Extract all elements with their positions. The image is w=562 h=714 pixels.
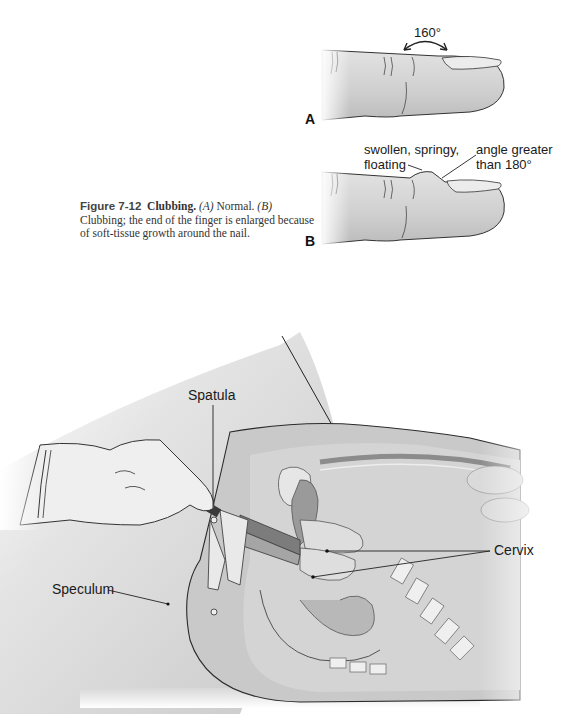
- finger-normal-illustration: [320, 48, 504, 124]
- caption-text-b: Clubbing; the end of the finger is enlar…: [80, 214, 314, 240]
- caption-marker-b: (B): [257, 200, 272, 212]
- label-swollen-line2: floating: [364, 158, 406, 172]
- pelvic-exam-illustration: [0, 332, 562, 714]
- label-angle-line1: angle greater: [476, 143, 553, 157]
- finger-clubbed-illustration: [320, 170, 504, 248]
- caption-title: Clubbing.: [147, 200, 196, 212]
- angle-label-160: 160°: [414, 26, 441, 40]
- label-swollen-line1: swollen, springy,: [364, 143, 459, 157]
- label-spatula: Spatula: [188, 388, 235, 402]
- angle-arrow-icon: [404, 42, 447, 51]
- caption-marker-a: (A): [199, 200, 214, 212]
- leader-line-swollen: [408, 165, 422, 170]
- label-cervix: Cervix: [494, 543, 534, 557]
- label-speculum: Speculum: [52, 582, 114, 596]
- caption-figure-number: Figure 7-12: [80, 200, 141, 212]
- leader-line-angle: [442, 155, 476, 178]
- illustration-canvas: [0, 0, 562, 714]
- label-angle-line2: than 180°: [476, 158, 532, 172]
- panel-letter-a: A: [305, 111, 315, 127]
- caption-text-a: Normal.: [214, 200, 258, 212]
- figure-caption: Figure 7-12 Clubbing. (A) Normal. (B) Cl…: [80, 200, 320, 241]
